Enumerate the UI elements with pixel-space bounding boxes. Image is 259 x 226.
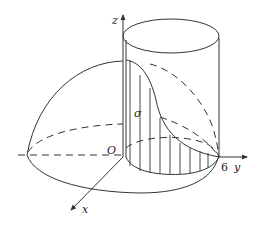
cylinder-top [123, 19, 219, 53]
intersection-curve-inner-dashed [160, 117, 217, 154]
origin-label: O [107, 144, 116, 157]
y-axis-label: y [233, 161, 241, 174]
diagram-canvas: z O 6 y x σ [0, 0, 259, 226]
z-axis-label: z [111, 14, 118, 27]
y-tick-label: 6 [221, 161, 228, 174]
x-axis [71, 157, 123, 210]
sigma-label: σ [134, 107, 142, 120]
x-axis-label: x [82, 203, 89, 216]
sigma-hatching [130, 60, 208, 174]
hemisphere-equator-front [27, 155, 218, 193]
